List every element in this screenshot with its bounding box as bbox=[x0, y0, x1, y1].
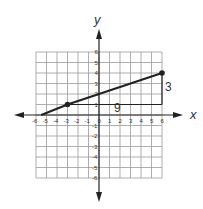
x-tick-label: -4 bbox=[53, 118, 59, 124]
x-tick-label: 3 bbox=[129, 118, 133, 124]
rise-label: 3 bbox=[165, 80, 172, 94]
x-tick-label: 1 bbox=[108, 118, 112, 124]
coordinate-plane: -6-5-4-3-2-10123456123456-1-2-3-4-5-6 y … bbox=[0, 0, 203, 209]
x-tick-label: -2 bbox=[74, 118, 80, 124]
x-axis-left-arrow-icon bbox=[14, 112, 24, 118]
y-tick-label: -2 bbox=[92, 133, 98, 139]
y-tick-label: -4 bbox=[92, 154, 98, 160]
x-tick-label: -1 bbox=[85, 118, 91, 124]
x-axis-label: x bbox=[189, 107, 197, 122]
point-marker-icon bbox=[65, 102, 71, 108]
x-tick-label: 5 bbox=[150, 118, 154, 124]
y-tick-label: -1 bbox=[92, 123, 98, 129]
x-tick-label: 4 bbox=[140, 118, 144, 124]
x-tick-label: 6 bbox=[161, 118, 165, 124]
data-series bbox=[41, 70, 165, 115]
y-axis-label: y bbox=[93, 12, 102, 27]
x-tick-label: -6 bbox=[32, 118, 38, 124]
x-axis-right-arrow-icon bbox=[173, 112, 183, 118]
y-axis-up-arrow-icon bbox=[96, 29, 102, 39]
y-tick-label: -3 bbox=[92, 144, 98, 150]
x-tick-label: 2 bbox=[119, 118, 123, 124]
y-tick-label: -5 bbox=[92, 165, 98, 171]
run-label: 9 bbox=[114, 101, 121, 115]
y-tick-label: -6 bbox=[92, 175, 98, 181]
y-axis-down-arrow-icon bbox=[96, 192, 102, 202]
x-tick-label: -3 bbox=[64, 118, 70, 124]
x-tick-label: -5 bbox=[43, 118, 49, 124]
point-marker-icon bbox=[159, 70, 165, 76]
